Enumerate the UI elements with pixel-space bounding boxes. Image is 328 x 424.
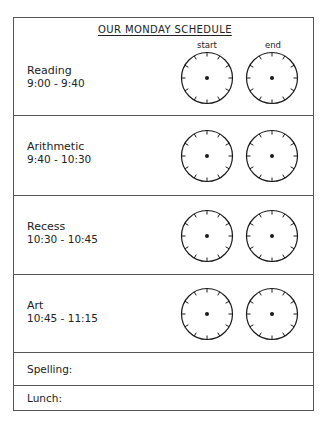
schedule-row-reading: OUR MONDAY SCHEDULE start end Reading 9:…	[14, 18, 313, 115]
page-title: OUR MONDAY SCHEDULE	[98, 24, 228, 35]
subject-label: Recess 10:30 - 10:45	[27, 220, 98, 246]
subject-name: Art	[27, 299, 98, 312]
subject-label: Arithmetic 9:40 - 10:30	[27, 140, 91, 166]
start-clock-icon[interactable]	[180, 287, 234, 341]
spelling-label: Spelling:	[27, 363, 72, 375]
subject-name: Recess	[27, 220, 98, 233]
subject-name: Reading	[27, 64, 85, 77]
schedule-row-lunch[interactable]: Lunch:	[14, 385, 313, 411]
schedule-worksheet: OUR MONDAY SCHEDULE start end Reading 9:…	[13, 17, 314, 411]
subject-label: Art 10:45 - 11:15	[27, 299, 98, 325]
subject-name: Arithmetic	[27, 140, 91, 153]
subject-label: Reading 9:00 - 9:40	[27, 64, 85, 90]
subject-time: 10:45 - 11:15	[27, 312, 98, 325]
start-clock-icon[interactable]	[180, 129, 234, 183]
schedule-row-art: Art 10:45 - 11:15	[14, 274, 313, 352]
schedule-row-recess: Recess 10:30 - 10:45	[14, 195, 313, 274]
start-clock-icon[interactable]	[180, 209, 234, 263]
lunch-label: Lunch:	[27, 392, 62, 404]
end-clock-icon[interactable]	[245, 287, 299, 341]
end-clock-icon[interactable]	[245, 209, 299, 263]
subject-time: 10:30 - 10:45	[27, 233, 98, 246]
subject-time: 9:40 - 10:30	[27, 153, 91, 166]
end-clock-icon[interactable]	[245, 51, 299, 105]
start-column-label: start	[187, 40, 227, 50]
subject-time: 9:00 - 9:40	[27, 77, 85, 90]
schedule-row-arithmetic: Arithmetic 9:40 - 10:30	[14, 115, 313, 195]
start-clock-icon[interactable]	[180, 51, 234, 105]
end-clock-icon[interactable]	[245, 129, 299, 183]
schedule-row-spelling[interactable]: Spelling:	[14, 352, 313, 385]
end-column-label: end	[253, 40, 293, 50]
